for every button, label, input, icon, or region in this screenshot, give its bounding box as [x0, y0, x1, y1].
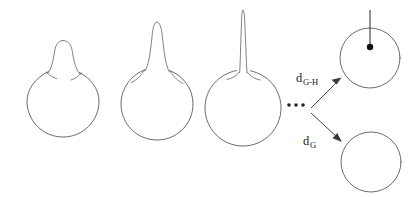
limit-shape-plain-circle	[341, 132, 401, 192]
label-d-g-subscript: G	[310, 140, 316, 150]
shape-2-spike-left	[145, 22, 157, 71]
ellipsis-dots	[287, 103, 305, 107]
shape-2-group	[121, 22, 193, 140]
shape-1-spike-right	[63, 41, 81, 75]
label-d-gromov: d G	[303, 134, 316, 150]
limit-shape-with-marked-point	[340, 10, 400, 88]
shape-3-group	[205, 10, 281, 146]
ellipsis-dot-2	[294, 103, 298, 107]
limit-upper-point	[367, 44, 373, 50]
shape-1-group	[27, 41, 99, 138]
shape-2-spike-right	[157, 22, 170, 72]
limit-lower-circle	[341, 132, 401, 192]
shape-3-spike-right	[243, 10, 247, 73]
figure-root: d G-H d G	[0, 0, 415, 197]
label-d-g-base: d	[303, 134, 310, 148]
ellipsis-dot-3	[301, 103, 305, 107]
label-d-gh-base: d	[296, 71, 303, 85]
arrow-gh-head	[332, 78, 342, 85]
shape-2-body	[121, 70, 193, 141]
arrow-g-shaft	[311, 113, 338, 138]
shape-1-spike-left	[48, 41, 64, 74]
diagram-canvas: d G-H d G	[0, 0, 415, 197]
shape-3-body	[205, 71, 281, 147]
arrow-to-gromov-limit	[311, 113, 342, 142]
label-d-gh-subscript: G-H	[303, 77, 318, 87]
shape-3-spike-left	[240, 10, 243, 73]
shape-1-body	[27, 72, 99, 138]
label-d-gromov-hausdorff: d G-H	[296, 71, 318, 87]
ellipsis-dot-1	[287, 103, 291, 107]
